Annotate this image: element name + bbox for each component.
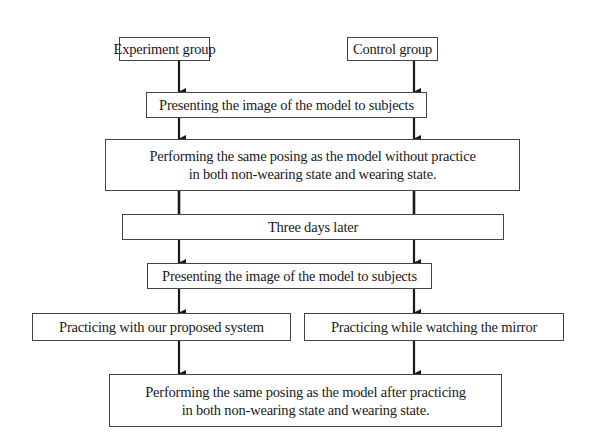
node-present-image-2: Presenting the image of the model to sub… <box>147 263 432 289</box>
node-label-line2: in both non-wearing state and wearing st… <box>182 401 430 419</box>
node-label: Control group <box>353 40 432 58</box>
node-label-line1: Performing the same posing as the model … <box>145 383 466 401</box>
node-label: Three days later <box>268 218 358 236</box>
node-label: Presenting the image of the model to sub… <box>159 96 414 114</box>
node-practice-system: Practicing with our proposed system <box>32 313 291 341</box>
node-experiment-group: Experiment group <box>119 37 210 61</box>
node-perform-after-practice: Performing the same posing as the model … <box>109 374 502 427</box>
node-label-line2: in both non-wearing state and wearing st… <box>189 165 437 183</box>
node-label: Presenting the image of the model to sub… <box>162 267 417 285</box>
node-label: Practicing while watching the mirror <box>331 318 537 336</box>
node-practice-mirror: Practicing while watching the mirror <box>304 313 564 341</box>
node-label-line1: Performing the same posing as the model … <box>149 147 475 165</box>
node-perform-without-practice: Performing the same posing as the model … <box>105 139 520 191</box>
node-control-group: Control group <box>347 37 438 61</box>
node-present-image-1: Presenting the image of the model to sub… <box>146 92 427 118</box>
node-three-days-later: Three days later <box>122 214 504 240</box>
node-label: Experiment group <box>114 40 216 58</box>
node-label: Practicing with our proposed system <box>59 318 264 336</box>
